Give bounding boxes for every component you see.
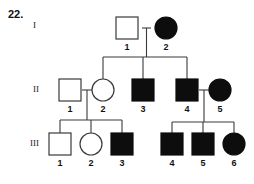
individual-i-2-affected-female [155,17,177,39]
individual-iii-1-unaffected-male [49,133,71,155]
id-label-iii-1: 1 [57,158,62,168]
individual-iii-2-unaffected-female [80,133,102,155]
individual-iii-6-affected-female [223,133,245,155]
individual-ii-4-affected-male [176,79,198,101]
id-label-ii-2: 2 [100,104,105,114]
id-label-i-1: 1 [124,42,129,52]
individual-i-1-unaffected-male [116,17,138,39]
individual-iii-4-affected-male [161,133,183,155]
id-label-iii-2: 2 [88,158,93,168]
id-label-ii-3: 3 [140,104,145,114]
id-label-ii-4: 4 [184,104,189,114]
pedigree-figure: 22. I II III [0,0,254,184]
individual-ii-3-affected-male [132,79,154,101]
id-label-ii-1: 1 [67,104,72,114]
id-label-iii-6: 6 [231,158,236,168]
id-label-iii-4: 4 [169,158,174,168]
individual-iii-3-affected-male [111,133,133,155]
id-label-i-2: 2 [163,42,168,52]
individual-ii-5-affected-female [209,79,231,101]
id-label-iii-3: 3 [119,158,124,168]
id-label-ii-5: 5 [217,104,222,114]
individual-ii-2-unaffected-female [92,79,114,101]
individual-ii-1-unaffected-male [59,79,81,101]
id-label-iii-5: 5 [200,158,205,168]
individual-iii-5-affected-male [192,133,214,155]
pedigree-diagram: 1212345123456 [0,0,254,184]
